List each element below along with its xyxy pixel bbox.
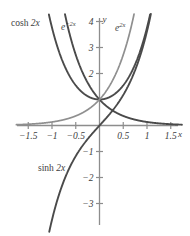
x-tick-label: −1.5 bbox=[19, 131, 37, 141]
y-tick-label: −3 bbox=[82, 199, 93, 209]
y-tick-label: 3 bbox=[89, 43, 94, 53]
y-tick-label: −2 bbox=[82, 173, 93, 183]
curve-label-e-neg-2x: e−2x bbox=[61, 20, 76, 32]
axes-group bbox=[17, 18, 178, 225]
x-tick-label: 0.5 bbox=[117, 131, 129, 141]
x-tick-label: −0.5 bbox=[67, 131, 85, 141]
x-axis-label: x bbox=[178, 129, 182, 139]
x-tick-label: −1 bbox=[46, 131, 57, 141]
y-tick-label: −1 bbox=[82, 147, 93, 157]
figure-container: cosh 2x e−2x e2x sinh 2x x y −1.5−1−0.50… bbox=[0, 0, 190, 236]
y-axis-label: y bbox=[103, 14, 107, 24]
x-tick-label: 1.5 bbox=[165, 131, 177, 141]
y-tick-label: 2 bbox=[89, 69, 94, 79]
curve-label-e-pos-2x: e2x bbox=[115, 21, 125, 33]
curve-label-sinh: sinh 2x bbox=[38, 163, 65, 173]
y-tick-label: 4 bbox=[89, 17, 94, 27]
plot-canvas bbox=[0, 0, 190, 236]
curve-label-cosh: cosh 2x bbox=[11, 18, 40, 28]
x-tick-label: 1 bbox=[145, 131, 150, 141]
